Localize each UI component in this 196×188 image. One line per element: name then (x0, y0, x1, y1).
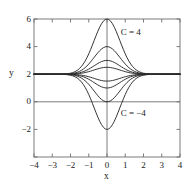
x-tick-label: −4 (27, 161, 41, 170)
x-axis-title: x (104, 172, 109, 182)
x-tick-label: 2 (137, 161, 151, 170)
figure-container: 6 4 2 0 −2 −4 −3 −2 −1 0 1 2 3 4 y x C =… (0, 0, 196, 188)
y-tick-label: 2 (17, 70, 31, 79)
x-tick-label: −1 (82, 161, 96, 170)
y-axis-title: y (9, 69, 14, 79)
curve-annotation-lower: C = −4 (121, 109, 146, 118)
y-tick-label: −2 (17, 125, 31, 134)
x-tick-label: 0 (100, 161, 114, 170)
y-tick-label: 0 (17, 97, 31, 106)
x-tick-label: 4 (173, 161, 187, 170)
x-tick-label: 1 (118, 161, 132, 170)
x-tick-label: −3 (45, 161, 59, 170)
y-tick-label: 6 (17, 15, 31, 24)
y-tick-label: 4 (17, 42, 31, 51)
x-tick-label: −2 (64, 161, 78, 170)
x-tick-label: 3 (155, 161, 169, 170)
curve-annotation-upper: C = 4 (121, 28, 141, 37)
